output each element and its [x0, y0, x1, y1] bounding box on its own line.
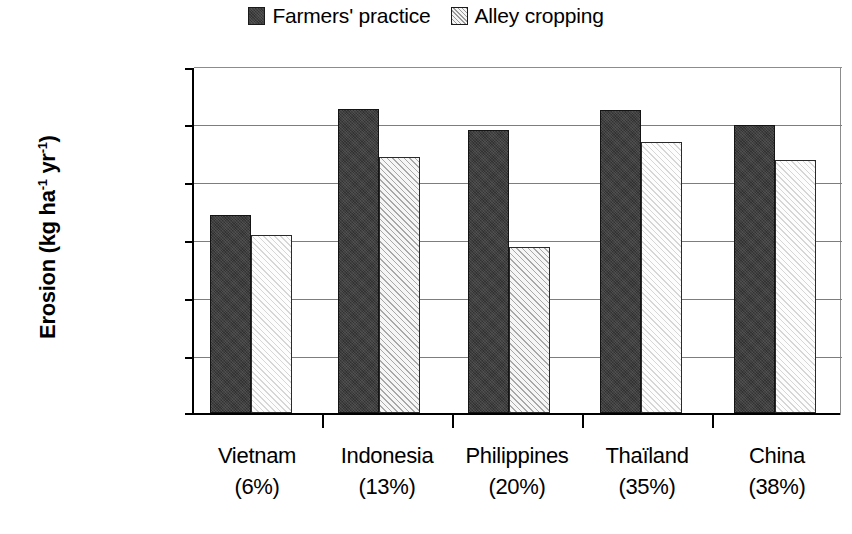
legend-entry-farmers-practice: Farmers' practice: [248, 4, 430, 28]
bar-vietnam-farmers-practice[interactable]: [210, 215, 251, 413]
bar-group-china: [714, 68, 842, 413]
bar-group-vietnam: [204, 68, 324, 413]
y-axis-title-end: ): [35, 135, 60, 142]
x-axis-label-china-name: China: [712, 440, 842, 471]
x-axis-label-philippines: Philippines (20%): [452, 440, 582, 502]
bar-thailand-alley-cropping[interactable]: [641, 142, 682, 413]
y-tick-mark-1000000: [185, 68, 194, 70]
y-tick-mark-1: [185, 413, 194, 415]
x-axis-label-vietnam: Vietnam (6%): [192, 440, 322, 502]
x-axis-label-indonesia-percent: (13%): [322, 471, 452, 502]
y-axis-title-mid: yr: [35, 153, 60, 179]
bar-group-philippines: [454, 68, 584, 413]
category-separator-3: [582, 415, 584, 428]
bar-indonesia-alley-cropping[interactable]: [379, 157, 420, 413]
hatched-swatch-icon: [451, 7, 468, 25]
plot-area: 1 000 000 100 000 10 000 1 000 100 10 1: [192, 68, 840, 415]
y-tick-mark-100: [185, 299, 194, 301]
x-axis-label-vietnam-name: Vietnam: [192, 440, 322, 471]
bar-group-container: [194, 68, 842, 413]
y-axis-title-sup2: -1: [35, 142, 50, 153]
bar-thailand-farmers-practice[interactable]: [600, 110, 641, 413]
y-tick-mark-10: [185, 357, 194, 359]
bar-philippines-farmers-practice[interactable]: [468, 130, 509, 413]
legend-label-alley-cropping: Alley cropping: [475, 4, 604, 28]
legend-label-farmers-practice: Farmers' practice: [272, 4, 430, 28]
legend-entry-alley-cropping: Alley cropping: [451, 4, 604, 28]
bar-philippines-alley-cropping[interactable]: [509, 247, 550, 413]
x-axis-label-thailand: Thaïland (35%): [582, 440, 712, 502]
x-axis-label-indonesia-name: Indonesia: [322, 440, 452, 471]
category-separator-4: [712, 415, 714, 428]
bar-indonesia-farmers-practice[interactable]: [338, 109, 379, 413]
x-axis-label-china-percent: (38%): [712, 471, 842, 502]
y-axis-title-main: Erosion (kg ha: [35, 190, 60, 339]
bar-vietnam-alley-cropping[interactable]: [251, 235, 292, 413]
bar-group-indonesia: [324, 68, 454, 413]
chart-legend: Farmers' practice Alley cropping: [0, 4, 852, 28]
cut-off-caption: [0, 524, 852, 534]
x-axis-label-thailand-percent: (35%): [582, 471, 712, 502]
x-axis-label-indonesia: Indonesia (13%): [322, 440, 452, 502]
dark-swatch-icon: [248, 7, 265, 25]
bar-group-thailand: [584, 68, 714, 413]
x-axis-label-philippines-name: Philippines: [452, 440, 582, 471]
bar-china-farmers-practice[interactable]: [734, 125, 775, 413]
x-axis-label-vietnam-percent: (6%): [192, 471, 322, 502]
y-axis-title: Erosion (kg ha-1 yr-1): [35, 72, 61, 402]
x-axis-label-china: China (38%): [712, 440, 842, 502]
y-tick-mark-100000: [185, 125, 194, 127]
x-axis-label-philippines-percent: (20%): [452, 471, 582, 502]
erosion-bar-chart: Farmers' practice Alley cropping Erosion…: [0, 0, 852, 534]
y-tick-mark-1000: [185, 241, 194, 243]
bar-china-alley-cropping[interactable]: [775, 160, 816, 413]
y-axis-title-sup1: -1: [35, 179, 50, 190]
category-separator-1: [322, 415, 324, 428]
y-tick-mark-10000: [185, 183, 194, 185]
x-axis-label-thailand-name: Thaïland: [582, 440, 712, 471]
category-separator-2: [452, 415, 454, 428]
